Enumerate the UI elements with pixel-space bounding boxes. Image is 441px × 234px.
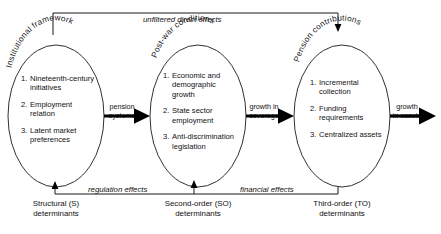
list-item-number: 1. — [163, 71, 172, 99]
flow-label-pension-systems: pension systems — [104, 102, 140, 120]
list-item-label: Employment relation — [30, 100, 95, 119]
diagram-canvas: Institutional framework Post-war conditi… — [0, 0, 441, 234]
list-institutional-framework: 1. Nineteenth-century initiatives 2. Emp… — [21, 74, 95, 145]
list-item-number: 1. — [21, 74, 30, 93]
caption-second-order-determinants: Second-order (SO) determinants — [145, 199, 251, 218]
list-item: 3. Latent market preferences — [21, 126, 95, 145]
caption-line2: determinants — [319, 209, 365, 218]
list-item-number: 3. — [310, 130, 319, 139]
list-item: 2. Funding requirements — [310, 104, 384, 123]
list-item-number: 2. — [163, 106, 172, 125]
list-item-label: Funding requirements — [319, 104, 384, 123]
list-item-label: Incremental collection — [319, 78, 384, 97]
flow-label-growth-in-assets: growth in assets — [390, 102, 424, 120]
caption-line1: Second-order (SO) — [165, 199, 232, 208]
list-item: 1. Nineteenth-century initiatives — [21, 74, 95, 93]
list-item-number: 3. — [21, 126, 30, 145]
caption-line2: determinants — [33, 209, 79, 218]
list-item-label: Anti-discrimination legislation — [172, 132, 237, 151]
label-financial-effects: financial effects — [240, 185, 294, 194]
list-item-label: State sector employment — [172, 106, 237, 125]
list-item: 3. Centralized assets — [310, 130, 384, 139]
list-pension-contributions: 1. Incremental collection 2. Funding req… — [310, 78, 384, 139]
flow-label-growth-in-coverage: growth in coverage — [244, 102, 284, 120]
list-item-label: Economic and demographic growth — [172, 71, 237, 99]
list-item-label: Latent market preferences — [30, 126, 95, 145]
list-item-number: 1. — [310, 78, 319, 97]
list-item: 1. Incremental collection — [310, 78, 384, 97]
caption-line2: determinants — [175, 209, 221, 218]
flow-label-line1: growth — [390, 102, 424, 111]
list-item-label: Nineteenth-century initiatives — [30, 74, 95, 93]
label-regulation-effects: regulation effects — [88, 185, 147, 194]
list-item-label: Centralized assets — [319, 130, 384, 139]
list-item-number: 2. — [310, 104, 319, 123]
flow-label-line2: in assets — [390, 111, 424, 120]
flow-label-line2: systems — [104, 111, 140, 120]
list-item: 2. State sector employment — [163, 106, 237, 125]
flow-label-line2: coverage — [244, 111, 284, 120]
list-item-number: 2. — [21, 100, 30, 119]
caption-line1: Structural (S) — [33, 199, 79, 208]
list-item-number: 3. — [163, 132, 172, 151]
arc-label-institutional-framework: Institutional framework — [4, 13, 75, 68]
label-unfiltered-direct-effects: unfiltered direct effects — [143, 15, 221, 24]
flow-label-line1: growth in — [244, 102, 284, 111]
list-item: 2. Employment relation — [21, 100, 95, 119]
caption-line1: Third-order (TO) — [313, 199, 370, 208]
flow-label-line1: pension — [104, 102, 140, 111]
caption-third-order-determinants: Third-order (TO) determinants — [292, 199, 392, 218]
list-item: 1. Economic and demographic growth — [163, 71, 237, 99]
list-item: 3. Anti-discrimination legislation — [163, 132, 237, 151]
list-post-war-conditions: 1. Economic and demographic growth 2. St… — [163, 71, 237, 151]
arc-label-pension-contributions: Pension contributions — [292, 13, 363, 63]
caption-structural-determinants: Structural (S) determinants — [6, 199, 106, 218]
